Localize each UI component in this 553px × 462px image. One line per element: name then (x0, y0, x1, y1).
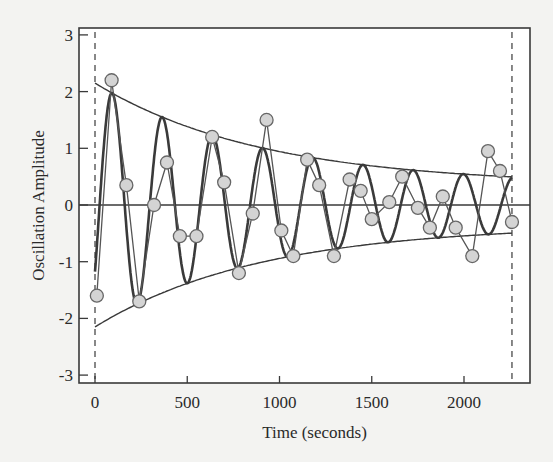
data-point-marker (173, 230, 186, 243)
data-point-marker (343, 173, 356, 186)
data-point-marker (436, 190, 449, 203)
y-tick-label: 2 (65, 83, 74, 102)
data-point-marker (423, 221, 436, 234)
data-point-marker (232, 267, 245, 280)
x-tick-label: 500 (175, 393, 201, 412)
x-tick-label: 0 (91, 393, 100, 412)
data-point-marker (396, 170, 409, 183)
y-tick-label: -1 (59, 253, 73, 272)
data-point-marker (327, 250, 340, 263)
x-tick-label: 1000 (263, 393, 297, 412)
data-point-marker (260, 113, 273, 126)
y-tick-label: -3 (59, 366, 73, 385)
data-point-marker (148, 199, 161, 212)
data-point-marker (493, 164, 506, 177)
data-point-marker (481, 145, 494, 158)
data-point-marker (354, 184, 367, 197)
data-point-marker (466, 250, 479, 263)
x-tick-label: 1500 (355, 393, 389, 412)
data-point-marker (505, 216, 518, 229)
data-point-marker (287, 250, 300, 263)
x-axis-title: Time (seconds) (262, 423, 367, 442)
data-point-marker (133, 295, 146, 308)
x-tick-label: 2000 (447, 393, 481, 412)
data-point-marker (90, 289, 103, 302)
y-tick-label: 1 (65, 139, 74, 158)
data-point-marker (365, 213, 378, 226)
data-point-marker (206, 130, 219, 143)
data-point-marker (246, 207, 259, 220)
y-axis-title: Oscillation Amplitude (29, 130, 48, 281)
data-point-marker (383, 196, 396, 209)
data-point-marker (105, 74, 118, 87)
data-point-marker (218, 176, 231, 189)
damped-oscillation-chart: 0500100015002000 -3-2-10123 Time (second… (0, 0, 553, 462)
data-point-marker (190, 230, 203, 243)
data-point-marker (275, 224, 288, 237)
data-point-marker (301, 153, 314, 166)
y-tick-label: -2 (59, 309, 73, 328)
y-tick-label: 0 (65, 196, 74, 215)
data-point-marker (411, 201, 424, 214)
y-tick-label: 3 (65, 26, 74, 45)
data-point-marker (313, 179, 326, 192)
data-point-marker (449, 221, 462, 234)
data-point-marker (160, 156, 173, 169)
data-point-marker (120, 179, 133, 192)
